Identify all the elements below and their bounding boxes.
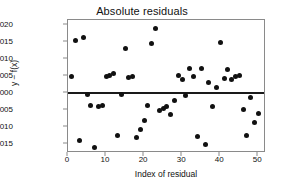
data-point	[214, 85, 219, 90]
data-point	[172, 98, 177, 103]
data-point	[187, 66, 192, 71]
y-tick-label: 0.0010	[0, 54, 13, 63]
data-point	[206, 80, 211, 85]
data-point	[138, 127, 143, 132]
x-tick-label: 20	[139, 155, 148, 164]
data-point	[218, 40, 223, 45]
data-point	[195, 134, 200, 139]
x-tick-mark	[219, 152, 220, 156]
data-point	[142, 118, 147, 123]
data-point	[191, 74, 196, 79]
y-tick-mark	[63, 143, 67, 144]
data-point	[115, 133, 120, 138]
x-tick-mark	[105, 152, 106, 156]
data-point	[73, 38, 78, 43]
x-tick-mark	[257, 152, 258, 156]
data-point	[85, 92, 90, 97]
x-tick-mark	[181, 152, 182, 156]
data-point	[119, 92, 124, 97]
data-point	[222, 76, 227, 81]
data-point	[199, 66, 204, 71]
y-tick-mark	[63, 41, 67, 42]
y-tick-mark	[63, 24, 67, 25]
x-tick-label: 0	[65, 155, 69, 164]
y-tick-label: −0.0005	[0, 105, 13, 114]
data-point	[237, 73, 242, 78]
plot-frame	[67, 19, 265, 152]
residual-scatter-figure: Absolute residuals y − f(x) Index of res…	[0, 0, 284, 188]
y-tick-label: 0.0020	[0, 20, 13, 29]
y-tick-label: 0.0015	[0, 37, 13, 46]
y-tick-label: 0.0005	[0, 71, 13, 80]
y-tick-label: −0.0010	[0, 122, 13, 131]
y-tick-mark	[63, 92, 67, 93]
y-tick-label: −0.0015	[0, 139, 13, 148]
x-tick-mark	[67, 152, 68, 156]
x-tick-label: 30	[177, 155, 186, 164]
x-axis-label: Index of residual	[67, 169, 265, 179]
data-point	[180, 77, 185, 82]
data-point	[153, 26, 158, 31]
data-point	[149, 41, 154, 46]
chart-title: Absolute residuals	[0, 5, 284, 17]
data-point	[244, 133, 249, 138]
data-point	[183, 93, 188, 98]
y-tick-mark	[63, 126, 67, 127]
data-point	[225, 67, 230, 72]
data-point	[252, 120, 257, 125]
x-tick-mark	[143, 152, 144, 156]
plot-area	[68, 20, 264, 151]
data-point	[100, 103, 105, 108]
data-point	[111, 71, 116, 76]
data-point	[130, 74, 135, 79]
zero-reference-line	[68, 92, 264, 94]
data-point	[134, 135, 139, 140]
data-point	[164, 104, 169, 109]
data-point	[123, 46, 128, 51]
y-tick-mark	[63, 58, 67, 59]
data-point	[88, 103, 93, 108]
data-point	[168, 112, 173, 117]
data-point	[81, 35, 86, 40]
data-point	[203, 142, 208, 147]
x-tick-label: 10	[101, 155, 110, 164]
x-tick-label: 40	[215, 155, 224, 164]
y-tick-mark	[63, 109, 67, 110]
data-point	[256, 111, 261, 116]
data-point	[145, 103, 150, 108]
data-point	[241, 107, 246, 112]
y-tick-label: 0.0000	[0, 88, 13, 97]
x-tick-label: 50	[253, 155, 262, 164]
data-point	[69, 74, 74, 79]
data-point	[210, 104, 215, 109]
data-point	[92, 145, 97, 150]
data-point	[77, 138, 82, 143]
data-point	[248, 95, 253, 100]
y-tick-mark	[63, 75, 67, 76]
